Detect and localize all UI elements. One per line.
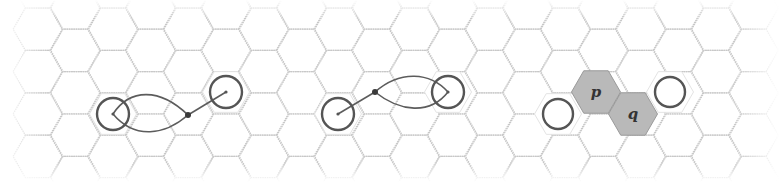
cell-label-p: p — [591, 83, 602, 101]
cell-label-q: q — [628, 105, 639, 123]
cell-center-dot — [336, 112, 339, 115]
junction-dot — [185, 112, 191, 118]
cell-center-dot — [446, 90, 449, 93]
cell-center-dot — [224, 90, 227, 93]
hex-grid-diagram: p q — [0, 0, 780, 182]
junction-dot — [372, 89, 378, 95]
cell-center-dot — [111, 112, 114, 115]
